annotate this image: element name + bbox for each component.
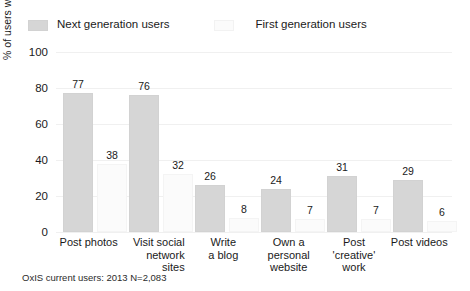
bar-value-label: 6 xyxy=(422,207,462,218)
bar xyxy=(327,176,357,232)
bar-group: 247 xyxy=(254,52,320,232)
bar xyxy=(393,180,423,232)
y-axis-tick-label: 20 xyxy=(22,191,48,202)
bar xyxy=(63,93,93,232)
bar-group: 7632 xyxy=(122,52,188,232)
y-axis-tick-label: 100 xyxy=(22,47,48,58)
bar xyxy=(261,189,291,232)
gridline xyxy=(56,232,452,233)
legend-swatch-first-generation-icon xyxy=(214,20,234,31)
legend-label-first-generation: First generation users xyxy=(256,19,367,31)
bar xyxy=(195,185,225,232)
bar xyxy=(129,95,159,232)
y-axis-tick-label: 60 xyxy=(22,119,48,130)
legend-label-next-generation: Next generation users xyxy=(57,19,170,31)
bar-value-label: 77 xyxy=(58,79,98,90)
bar-groups: 77387632268247317296 xyxy=(56,52,452,232)
bar-group: 268 xyxy=(188,52,254,232)
legend-swatch-next-generation-icon xyxy=(28,20,48,31)
y-axis-tick-label: 80 xyxy=(22,83,48,94)
bar-group: 296 xyxy=(386,52,452,232)
bar-group: 7738 xyxy=(56,52,122,232)
bar-chart: Next generation users First generation u… xyxy=(0,0,470,291)
legend-entry-first-generation: First generation users xyxy=(214,19,367,31)
bar xyxy=(427,221,457,232)
x-axis-category-label: Writea blog xyxy=(191,236,256,278)
legend-entry-next-generation: Next generation users xyxy=(28,19,170,31)
bar-value-label: 26 xyxy=(190,171,230,182)
y-axis-tick-label: 0 xyxy=(22,227,48,238)
x-axis-category-label: Own apersonalwebsite xyxy=(256,236,321,278)
chart-footnote: OxIS current users: 2013 N=2,083 xyxy=(22,272,166,283)
y-axis-title: % of users who do more than never xyxy=(0,0,14,72)
bar-group: 317 xyxy=(320,52,386,232)
x-axis-category-label: Post'creative'work xyxy=(321,236,386,278)
bar-value-label: 24 xyxy=(256,175,296,186)
chart-legend: Next generation users First generation u… xyxy=(28,17,367,33)
bar-value-label: 31 xyxy=(322,162,362,173)
bar-value-label: 29 xyxy=(388,166,428,177)
bar-value-label: 76 xyxy=(124,81,164,92)
x-axis-category-label: Post videos xyxy=(387,236,452,278)
plot-area: 020406080100 77387632268247317296 xyxy=(56,52,452,232)
y-axis-tick-label: 40 xyxy=(22,155,48,166)
